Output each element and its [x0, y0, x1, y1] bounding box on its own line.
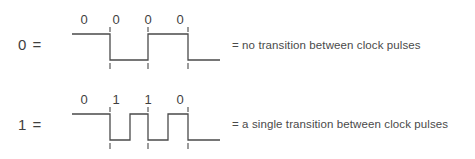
row-zero-clock-ticks-top: [110, 27, 188, 32]
row-zero-wave-area: 0 0 0 0: [0, 0, 240, 80]
row-zero-signal-trace: [72, 34, 220, 60]
row-zero-waveform-svg: [0, 0, 240, 80]
row-one-description: = a single transition between clock puls…: [232, 118, 448, 130]
row-one-waveform-svg: [0, 80, 240, 159]
row-zero-clock-ticks-bottom: [110, 63, 188, 69]
waveform-row-one: 1 = 0 1 1 0: [0, 80, 475, 159]
row-one-signal-trace: [72, 114, 220, 140]
row-zero-description: = no transition between clock pulses: [232, 39, 421, 51]
row-one-wave-area: 0 1 1 0: [0, 80, 240, 159]
waveform-row-zero: 0 = 0 0 0 0: [0, 0, 475, 80]
encoding-diagram: 0 = 0 0 0 0: [0, 0, 475, 159]
row-one-clock-ticks-top: [110, 107, 188, 112]
row-one-clock-ticks-bottom: [110, 143, 188, 149]
